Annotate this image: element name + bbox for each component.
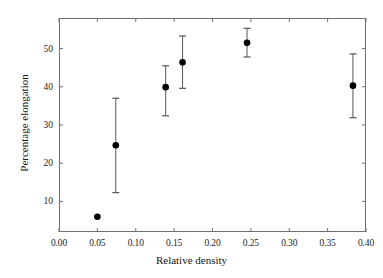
y-tick-label-0: 10 [29, 196, 53, 206]
x-tick-label-5: 0.25 [243, 238, 259, 248]
y-tick-label-3: 40 [29, 82, 53, 92]
x-tick-label-2: 0.10 [128, 238, 144, 248]
x-tick-label-3: 0.15 [166, 238, 182, 248]
x-tick-label-8: 0.40 [358, 238, 374, 248]
plot-area-frame [59, 18, 366, 232]
x-tick-label-6: 0.30 [281, 238, 297, 248]
y-tick-label-2: 30 [29, 120, 53, 130]
x-tick-label-0: 0.00 [51, 238, 67, 248]
y-axis-title: Percentage elongation [18, 43, 30, 203]
x-tick-label-4: 0.20 [204, 238, 220, 248]
chart-figure: 0.000.050.100.150.200.250.300.350.40 102… [0, 0, 383, 278]
y-tick-label-1: 20 [29, 158, 53, 168]
x-tick-label-7: 0.35 [320, 238, 336, 248]
x-tick-label-1: 0.05 [89, 238, 105, 248]
x-axis-title: Relative density [0, 254, 383, 266]
y-tick-label-4: 50 [29, 44, 53, 54]
